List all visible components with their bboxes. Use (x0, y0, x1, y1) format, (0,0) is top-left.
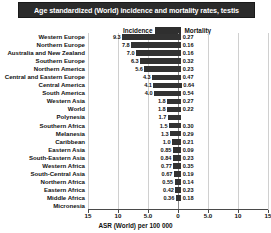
x-axis-line (88, 209, 268, 210)
page-title: Age standardized (World) incidence and m… (34, 5, 239, 14)
incidence-value-label: 9.3 (113, 33, 121, 41)
bar-row: Northern America5.60.23 (88, 65, 268, 73)
incidence-value-label: 1.0 (163, 138, 171, 146)
mortality-value-label: 0.47 (183, 73, 194, 81)
chart-title-banner: Age standardized (World) incidence and m… (18, 2, 255, 18)
mortality-value-label: 0.23 (183, 154, 194, 162)
bar-row: Central America4.10.64 (88, 81, 268, 89)
bar-row: Western Africa0.770.35 (88, 162, 268, 170)
mortality-bar (178, 75, 181, 81)
bar-row: South-Eastern Asia0.840.23 (88, 154, 268, 162)
mortality-bar (178, 83, 182, 89)
bar-row: World1.80.22 (88, 105, 268, 113)
mortality-bar (178, 139, 181, 145)
x-tick-label: 0 (176, 212, 179, 219)
bar-row: South-Central Asia0.670.19 (88, 170, 268, 178)
category-label: Polynesia (57, 113, 85, 121)
bar-row: Middle Africa0.360.18 (88, 194, 268, 202)
mortality-bar (178, 115, 181, 121)
incidence-value-label: 1.8 (158, 105, 166, 113)
mortality-value-label: 0.23 (183, 65, 194, 73)
incidence-value-label: 4.1 (144, 81, 152, 89)
mortality-value-label: 0.16 (183, 49, 194, 57)
x-tick-label: 10 (115, 212, 122, 219)
mortality-bar (178, 179, 181, 185)
incidence-value-label: 7.8 (122, 41, 130, 49)
category-label: Southern Africa (40, 122, 85, 130)
bar-row: Southern Europe6.30.32 (88, 57, 268, 65)
incidence-value-label: 4.0 (145, 89, 153, 97)
category-label: Central America (38, 81, 85, 89)
category-label: South-Central Asia (30, 170, 85, 178)
incidence-value-label: 0.36 (163, 194, 174, 202)
incidence-bar (131, 42, 178, 48)
mortality-value-label: 0.54 (183, 89, 194, 97)
incidence-value-label: 0.84 (161, 154, 172, 162)
mortality-value-label: 0.21 (183, 138, 194, 146)
mortality-bar (178, 99, 181, 105)
category-label: Central and Eastern Europe (5, 73, 85, 81)
incidence-bar (167, 107, 178, 113)
mortality-bar (178, 107, 181, 113)
category-label: Western Asia (47, 97, 85, 105)
mortality-value-label: 0.22 (183, 105, 194, 113)
mortality-bar (178, 147, 181, 153)
mortality-value-label: 0.64 (183, 81, 194, 89)
mortality-value-label: 0.27 (183, 33, 194, 41)
plot-area: Western Europe9.30.27Northern Europe7.80… (88, 33, 268, 210)
incidence-bar (168, 115, 178, 121)
bar-rows: Western Europe9.30.27Northern Europe7.80… (88, 33, 268, 210)
bar-row: Melanesia1.30.29 (88, 130, 268, 138)
bar-row: Australia and New Zealand7.00.16 (88, 49, 268, 57)
incidence-value-label: 1.3 (161, 130, 169, 138)
incidence-value-label: 0.85 (161, 146, 172, 154)
incidence-bar (154, 91, 178, 97)
incidence-value-label: 1.5 (160, 122, 168, 130)
mortality-bar (178, 187, 181, 193)
category-label: Eastern Africa (44, 186, 85, 194)
category-label: Northern Europe (37, 41, 85, 49)
incidence-value-label: 0.77 (161, 162, 172, 170)
bar-row: Caribbean1.00.21 (88, 138, 268, 146)
category-label: Melanesia (56, 130, 85, 138)
mortality-value-label: 0.32 (183, 57, 194, 65)
mortality-bar (178, 66, 181, 72)
category-label: Southern Europe (36, 57, 85, 65)
mortality-bar (178, 50, 181, 56)
x-tick-label: 15 (85, 212, 92, 219)
mortality-value-label: 0.16 (183, 41, 194, 49)
incidence-value-label: 0.42 (163, 186, 174, 194)
mortality-value-label: 0.27 (183, 97, 194, 105)
incidence-value-label: 4.3 (143, 73, 151, 81)
category-label: Western Africa (42, 162, 85, 170)
category-label: Australia and New Zealand (7, 49, 85, 57)
bar-row: South America4.00.54 (88, 89, 268, 97)
mortality-bar (178, 58, 181, 64)
category-label: Middle Africa (47, 194, 85, 202)
incidence-bar (144, 66, 178, 72)
bar-row: Southern Africa1.50.30 (88, 122, 268, 130)
bar-row: Northern Africa0.550.14 (88, 178, 268, 186)
incidence-value-label: 6.3 (131, 57, 139, 65)
category-label: Eastern Asia (48, 146, 85, 154)
category-label: Western Europe (38, 33, 85, 41)
incidence-bar (169, 123, 178, 129)
mortality-bar (178, 155, 181, 161)
mortality-value-label: 0.19 (183, 170, 194, 178)
incidence-bar (170, 131, 178, 137)
mortality-value-label: 0.09 (183, 146, 194, 154)
mortality-value-label: 0.14 (183, 178, 194, 186)
mortality-bar (178, 131, 181, 137)
mortality-value-label: 0.18 (183, 194, 194, 202)
incidence-bar (152, 75, 178, 81)
bar-row: Western Europe9.30.27 (88, 33, 268, 41)
bar-row: Central and Eastern Europe4.30.47 (88, 73, 268, 81)
incidence-bar (136, 50, 178, 56)
category-label: Caribbean (55, 138, 85, 146)
incidence-value-label: 1.7 (159, 113, 167, 121)
x-tick-label: 10 (235, 212, 242, 219)
x-tick-label: 5.0 (204, 212, 213, 219)
x-axis-title: ASR (World) per 100 000 (0, 222, 271, 229)
mortality-bar (178, 195, 181, 201)
incidence-bar (167, 99, 178, 105)
